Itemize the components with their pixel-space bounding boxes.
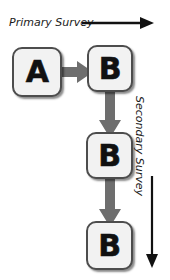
diagram-canvas: Primary Survey Secondary Survey A: [0, 0, 170, 280]
node-b3: B: [86, 221, 133, 270]
node-b3-label: B: [98, 231, 120, 261]
node-b1: B: [87, 45, 133, 92]
node-b2-label: B: [98, 141, 120, 171]
node-a: A: [12, 47, 62, 97]
node-a-label: A: [26, 57, 49, 87]
node-b2: B: [86, 132, 133, 179]
connector-b2-to-b3: [98, 174, 122, 227]
connector-b1-to-b2: [98, 86, 122, 138]
arrow-right-icon: [82, 15, 154, 31]
node-b1-label: B: [99, 54, 121, 84]
arrow-down-icon: [144, 176, 160, 268]
primary-survey-label: Primary Survey: [9, 16, 93, 29]
